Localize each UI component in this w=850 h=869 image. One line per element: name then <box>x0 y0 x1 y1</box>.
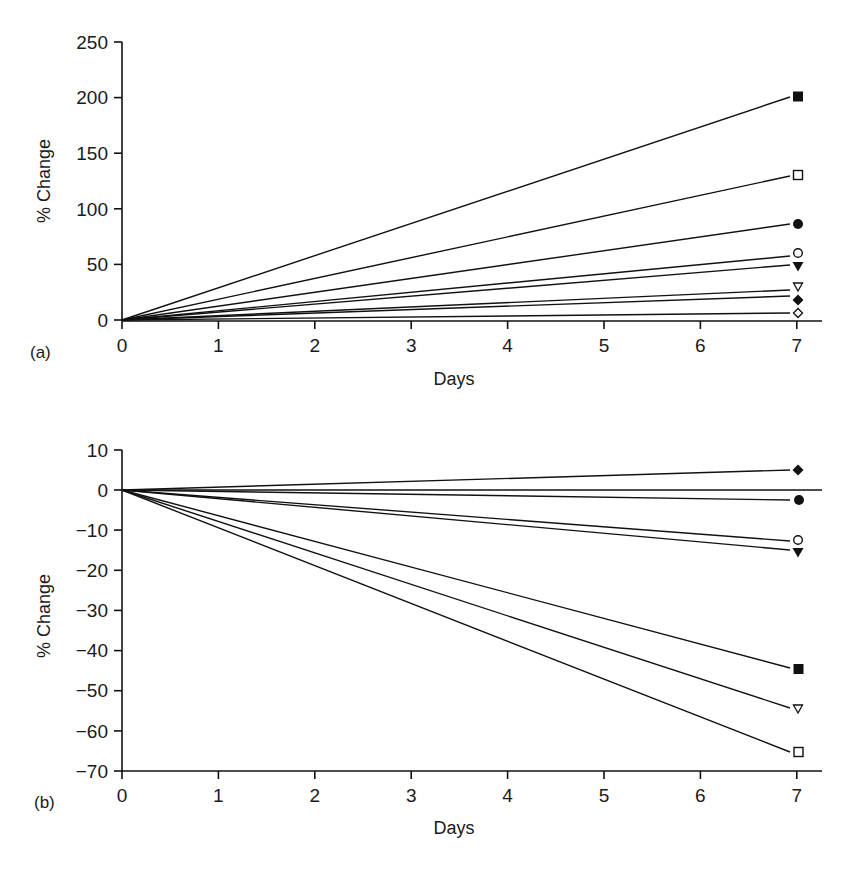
x-ticks-a <box>122 321 797 329</box>
series-line-open-square <box>122 176 790 320</box>
x-tick-labels-b: 0 1 2 3 4 5 6 7 <box>117 785 802 806</box>
triangle-down-filled-marker <box>793 548 804 558</box>
x-tick-label: 1 <box>213 335 224 356</box>
square-filled-marker <box>794 664 804 674</box>
y-tick-label: 100 <box>76 199 108 220</box>
circle-filled-marker <box>793 219 803 229</box>
y-tick-label: 250 <box>76 32 108 53</box>
triangle-down-open-marker <box>794 283 803 291</box>
y-tick-label: 200 <box>76 87 108 108</box>
y-ticks-b <box>114 450 122 771</box>
y-tick-label: 50 <box>87 254 108 275</box>
x-tick-label: 2 <box>310 785 321 806</box>
x-tick-label: 7 <box>792 335 803 356</box>
y-tick-label: 10 <box>87 440 108 461</box>
y-tick-label: −50 <box>76 680 108 701</box>
square-open-marker <box>794 748 803 757</box>
panel-b: 10 0 −10 −20 −30 −40 −50 −60 −70 0 1 2 3… <box>34 440 822 838</box>
circle-open-marker <box>794 249 803 258</box>
x-tick-label: 4 <box>502 785 513 806</box>
series-line-open-circle <box>122 256 790 320</box>
series-lines-a <box>122 97 790 320</box>
triangle-down-filled-marker <box>793 262 804 272</box>
y-tick-label: −70 <box>76 761 108 782</box>
y-tick-labels-b: 10 0 −10 −20 −30 −40 −50 −60 −70 <box>76 440 108 782</box>
panel-a: 250 200 150 100 50 0 0 1 2 3 4 5 6 7 <box>30 32 822 389</box>
x-ticks-b <box>122 771 797 779</box>
square-filled-marker <box>793 92 803 102</box>
markers-b <box>793 465 805 757</box>
y-tick-label: −10 <box>76 520 108 541</box>
diamond-open-marker <box>794 309 803 318</box>
series-line-open-triangle <box>122 490 790 708</box>
circle-filled-marker <box>794 495 804 505</box>
y-axis-title-b: % Change <box>34 574 54 658</box>
series-line-filled-square <box>122 97 790 320</box>
diamond-filled-marker <box>793 295 804 306</box>
x-tick-label: 6 <box>695 335 706 356</box>
series-line-filled-square <box>122 490 790 668</box>
panel-label-a: (a) <box>30 343 51 362</box>
y-tick-label: 0 <box>97 480 108 501</box>
series-line-filled-diamond <box>122 470 790 490</box>
y-tick-label: −60 <box>76 721 108 742</box>
x-tick-label: 5 <box>599 335 610 356</box>
square-open-marker <box>794 171 803 180</box>
y-tick-label: −30 <box>76 600 108 621</box>
x-axis-title-a: Days <box>433 369 474 389</box>
y-tick-label: 150 <box>76 143 108 164</box>
x-tick-label: 5 <box>599 785 610 806</box>
y-tick-label: −20 <box>76 560 108 581</box>
x-tick-label: 0 <box>117 335 128 356</box>
series-lines-b <box>122 470 790 752</box>
x-tick-label: 0 <box>117 785 128 806</box>
series-line-filled-triangle <box>122 265 790 320</box>
y-tick-label: 0 <box>97 310 108 331</box>
x-tick-label: 3 <box>406 335 417 356</box>
x-tick-label: 6 <box>695 785 706 806</box>
diamond-filled-marker <box>793 465 804 476</box>
x-tick-label: 2 <box>310 335 321 356</box>
series-line-open-square <box>122 490 790 752</box>
x-tick-label: 4 <box>502 335 513 356</box>
series-line-open-circle <box>122 490 790 541</box>
x-tick-label: 1 <box>213 785 224 806</box>
y-axis-title-a: % Change <box>34 139 54 223</box>
x-tick-label: 3 <box>406 785 417 806</box>
panel-label-b: (b) <box>34 793 55 812</box>
markers-a <box>793 92 804 318</box>
x-tick-labels-a: 0 1 2 3 4 5 6 7 <box>117 335 802 356</box>
triangle-down-open-marker <box>794 705 803 713</box>
x-tick-label: 7 <box>792 785 803 806</box>
circle-open-marker <box>794 536 803 545</box>
x-axis-title-b: Days <box>433 818 474 838</box>
figure: 250 200 150 100 50 0 0 1 2 3 4 5 6 7 <box>0 0 850 869</box>
y-ticks-a <box>114 42 122 320</box>
y-tick-label: −40 <box>76 640 108 661</box>
y-tick-labels-a: 250 200 150 100 50 0 <box>76 32 108 331</box>
